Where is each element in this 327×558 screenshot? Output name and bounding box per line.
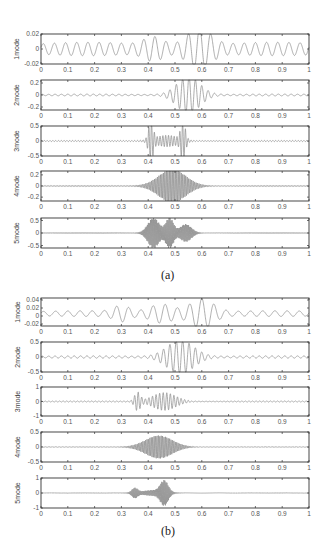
subplot-b-3mode: 00.10.20.30.40.50.60.70.80.9110-13mode [14,383,311,425]
subplot-a-1mode: 00.10.20.30.40.50.60.70.80.910.020-0.021… [13,30,311,73]
y-tick-label: 0.5 [30,338,39,345]
x-tick-label: 0.1 [63,203,72,210]
x-tick-label: 0.4 [144,203,153,210]
x-tick-label: 0.3 [117,328,126,335]
x-tick-label: 0.3 [117,510,126,517]
x-tick-label: 0 [39,66,43,73]
x-tick-label: 0.6 [197,418,206,425]
x-tick-label: 0.1 [63,158,72,165]
axes-box [41,34,309,64]
x-tick-label: 0 [39,418,43,425]
y-tick-label: 0.04 [26,296,39,303]
x-tick-label: 0.7 [224,464,233,471]
y-tick-label: 0 [35,137,39,144]
waveform-line [41,171,309,201]
x-tick-label: 0.5 [170,510,179,517]
x-tick-label: 0.7 [224,250,233,257]
y-axis-label: 3mode [13,130,20,152]
x-tick-label: 0.9 [278,418,287,425]
y-tick-label: -0.5 [28,152,40,159]
subplot-a-5mode: 00.10.20.30.40.50.60.70.80.910.50-0.55mo… [13,217,311,257]
x-tick-label: 0.2 [90,374,99,381]
x-tick-label: 0.4 [144,510,153,517]
x-tick-label: 0.1 [63,66,72,73]
x-tick-label: 1 [307,203,311,210]
y-tick-label: -1 [33,412,39,419]
x-tick-label: 0.1 [63,510,72,517]
waveform-line [41,342,309,372]
x-tick-label: 0 [39,510,43,517]
x-tick-label: 0.8 [251,328,260,335]
x-tick-label: 0.5 [170,328,179,335]
y-tick-label: 0 [35,45,39,52]
y-tick-label: -1 [33,504,39,511]
subplot-a-3mode: 00.10.20.30.40.50.60.70.80.910.50-0.53mo… [13,122,311,165]
x-tick-label: 0.4 [144,418,153,425]
x-tick-label: 0.2 [90,510,99,517]
y-tick-label: -0.2 [28,193,40,200]
x-tick-label: 0.6 [197,158,206,165]
y-tick-label: 0 [35,91,39,98]
x-tick-label: 0.5 [170,112,179,119]
x-tick-label: 0.1 [63,418,72,425]
x-tick-label: 0.4 [144,112,153,119]
y-axis-label: 5mode [14,482,21,504]
x-tick-label: 0.4 [144,158,153,165]
x-tick-label: 0.3 [117,66,126,73]
x-tick-label: 0.8 [251,66,260,73]
x-tick-label: 0.6 [197,464,206,471]
x-tick-label: 0.4 [144,374,153,381]
x-tick-label: 0.2 [90,66,99,73]
x-tick-label: 0.8 [251,418,260,425]
y-tick-label: 0.02 [26,30,39,37]
y-tick-label: 0.2 [30,171,39,178]
y-tick-label: -0.5 [28,242,40,249]
y-tick-label: -0.2 [28,103,40,110]
x-tick-label: 0.7 [224,112,233,119]
x-tick-label: 0 [39,203,43,210]
subplot-b-2mode: 00.10.20.30.40.50.60.70.80.910.50-0.52mo… [14,338,311,381]
x-tick-label: 0.5 [170,158,179,165]
x-tick-label: 0 [39,374,43,381]
x-tick-label: 0.8 [251,203,260,210]
x-tick-label: 0.1 [63,328,72,335]
x-tick-label: 0.8 [251,158,260,165]
x-tick-label: 0.2 [90,464,99,471]
x-tick-label: 0.4 [144,66,153,73]
y-tick-label: 0.2 [30,79,39,86]
x-tick-label: 0.9 [278,112,287,119]
x-tick-label: 1 [307,158,311,165]
x-tick-label: 0.8 [251,112,260,119]
x-tick-label: 1 [307,418,311,425]
x-tick-label: 0.3 [117,203,126,210]
subplot-b-5mode: 00.10.20.30.40.50.60.70.80.9110-15mode [14,474,311,517]
waveform-line [41,126,309,156]
y-tick-label: -0.5 [28,368,40,375]
caption-a: (a) [161,268,174,283]
y-axis-label: 4mode [13,175,20,197]
waveform-line [41,480,309,506]
x-tick-label: 1 [307,112,311,119]
x-tick-label: 0.9 [278,374,287,381]
x-tick-label: 0.2 [90,203,99,210]
y-tick-label: 0 [35,229,39,236]
x-tick-label: 0.3 [117,418,126,425]
x-tick-label: 0.8 [251,510,260,517]
x-tick-label: 0.9 [278,510,287,517]
x-tick-label: 0.9 [278,464,287,471]
x-tick-label: 0.1 [63,374,72,381]
x-tick-label: 0.8 [251,464,260,471]
waveform-line [41,298,309,326]
x-tick-label: 0 [39,158,43,165]
x-tick-label: 0.3 [117,464,126,471]
y-axis-label: 4mode [14,436,21,458]
x-tick-label: 0.7 [224,374,233,381]
x-tick-label: 0 [39,250,43,257]
x-tick-label: 0.5 [170,418,179,425]
x-tick-label: 0.8 [251,374,260,381]
x-tick-label: 0.3 [117,374,126,381]
x-tick-label: 0.6 [197,510,206,517]
x-tick-label: 0.3 [117,112,126,119]
x-tick-label: 0.6 [197,112,206,119]
y-tick-label: 0.02 [26,304,39,311]
